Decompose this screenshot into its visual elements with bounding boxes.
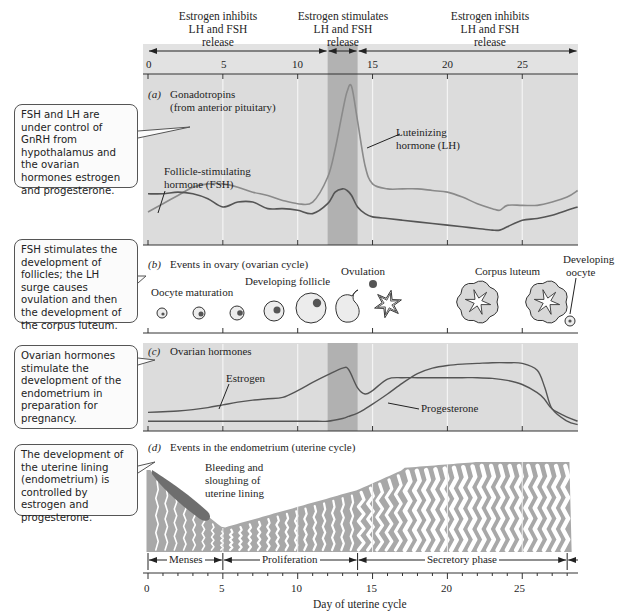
header-phase-3: Estrogen inhibits LH and FSH release — [425, 10, 555, 49]
panel-b-letter: (b) — [148, 258, 161, 271]
callout-ovarian-hormones-tail — [138, 358, 155, 365]
panel-a-letter: (a) — [148, 88, 161, 101]
panel-d-letter: (d) — [148, 441, 161, 454]
callout-ovary-tail — [138, 276, 146, 283]
header-phase-1-line-1: Estrogen inhibits — [158, 10, 278, 23]
developing-follicle-label: Developing follicle — [245, 275, 330, 288]
fsh-line — [148, 189, 578, 231]
follicle-stage-5-wall — [296, 293, 326, 323]
top-tick-10: 10 — [292, 58, 303, 70]
header-phase-1: Estrogen inhibits LH and FSH release — [158, 10, 278, 49]
progesterone-label: Progesterone — [421, 402, 478, 415]
lh-label-line-1: Luteinizing — [396, 126, 447, 139]
estrogen-label: Estrogen — [226, 372, 265, 385]
panel-c-title: Ovarian hormones — [170, 345, 252, 358]
follicle-stage-3 — [230, 306, 244, 320]
ovulating-follicle — [336, 280, 377, 322]
header-phase-2-line-3: release — [283, 36, 403, 49]
panel-b-title: Events in ovary (ovarian cycle) — [170, 258, 308, 271]
corpus-luteum-1 — [457, 281, 498, 323]
developing-oocyte — [565, 316, 575, 326]
top-tick-25: 25 — [517, 58, 528, 70]
header-phase-3-line-3: release — [425, 36, 555, 49]
callout-ovarian-hormones: Ovarian hormones stimulate the developme… — [14, 345, 138, 429]
follicle-stage-2-oocyte — [199, 312, 204, 317]
panel-c-letter: (c) — [148, 345, 160, 358]
follicle-stage-5 — [296, 293, 326, 323]
panel-a-title-line-2: (from anterior pituitary) — [170, 101, 276, 114]
header-phase-2: Estrogen stimulates LH and FSH release — [283, 10, 403, 49]
oocyte-maturation-label: Oocyte maturation — [151, 286, 233, 299]
bottom-tick-25: 25 — [514, 582, 525, 594]
callout-gonadotropins-tail — [138, 127, 190, 138]
header-phase-1-line-3: release — [158, 36, 278, 49]
follicle-stage-4 — [264, 301, 284, 321]
bottom-tick-10: 10 — [291, 582, 302, 594]
panel-a-title-line-1: Gonadotropins — [170, 88, 235, 101]
corpus-luteum-2 — [526, 281, 567, 323]
header-phase-1-line-2: LH and FSH — [158, 23, 278, 36]
top-tick-0: 0 — [146, 58, 152, 70]
callout-ovary: FSH stimulates the development of follic… — [14, 239, 138, 323]
bottom-tick-15: 15 — [366, 582, 377, 594]
top-tick-5: 5 — [221, 58, 227, 70]
developing-oocyte-label-line-2: oocyte — [566, 266, 595, 279]
developing-oocyte-leader-line — [570, 278, 576, 314]
fsh-label-line-1: Follicle-stimulating — [164, 165, 251, 178]
header-phase-3-line-1: Estrogen inhibits — [425, 10, 555, 23]
header-phase-2-line-2: LH and FSH — [283, 23, 403, 36]
ruptured-follicle — [375, 290, 402, 317]
lh-label-line-2: hormone (LH) — [396, 139, 460, 152]
callout-gonadotropins: FSH and LH are under control of GnRH fro… — [14, 104, 138, 188]
ovulating-follicle-wall — [336, 290, 359, 322]
bottom-tick-5: 5 — [219, 582, 225, 594]
phase-proliferation-label: Proliferation — [260, 553, 320, 566]
phase-secretory-label: Secretory phase — [425, 553, 499, 566]
estrogen-line — [148, 367, 578, 421]
follicle-stage-2 — [193, 307, 205, 319]
progesterone-leader-line — [388, 403, 419, 409]
header-phase-2-line-1: Estrogen stimulates — [283, 10, 403, 23]
bottom-tick-0: 0 — [144, 582, 150, 594]
released-oocyte — [369, 280, 377, 288]
developing-oocyte-oocyte — [568, 319, 571, 322]
follicle-stage-1 — [157, 308, 167, 318]
follicle-stage-3-oocyte — [237, 310, 243, 316]
bleeding-label-line-3: uterine lining — [205, 487, 264, 500]
follicle-stage-1-oocyte — [161, 312, 164, 315]
developing-oocyte-label-line-1: Developing — [563, 253, 614, 266]
phase-menses-label: Menses — [167, 553, 205, 566]
x-axis-label: Day of uterine cycle — [313, 598, 407, 611]
bottom-tick-20: 20 — [441, 582, 452, 594]
callout-endometrium: The development of the uterine lining (e… — [14, 444, 138, 516]
bleeding-label-line-2: sloughing of — [205, 474, 260, 487]
fsh-label-line-2: hormone (FSH) — [164, 178, 233, 191]
bleeding-label-line-1: Bleeding and — [205, 461, 263, 474]
follicle-stage-4-oocyte — [274, 307, 281, 314]
corpus-luteum-label: Corpus luteum — [475, 265, 540, 278]
panel-d-title: Events in the endometrium (uterine cycle… — [170, 441, 355, 454]
top-tick-15: 15 — [367, 58, 378, 70]
top-tick-20: 20 — [442, 58, 453, 70]
ovulation-label: Ovulation — [341, 265, 385, 278]
header-phase-3-line-2: LH and FSH — [425, 23, 555, 36]
follicle-stage-5-oocyte — [313, 299, 321, 307]
